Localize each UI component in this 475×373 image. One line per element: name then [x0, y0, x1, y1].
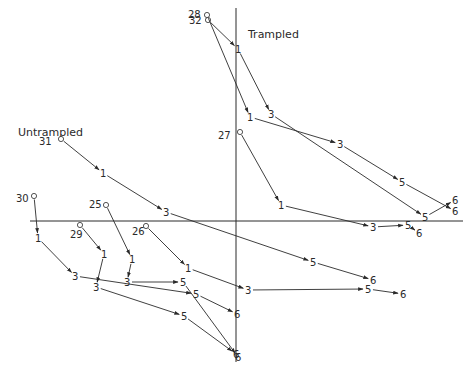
trajectory-plot-27: 271356	[218, 129, 422, 239]
time-step-label: 3	[93, 282, 99, 293]
time-step-label: 5	[365, 284, 371, 295]
trajectory-arrow	[412, 228, 415, 230]
trajectory-arrow	[148, 228, 184, 264]
time-step-label: 1	[35, 233, 41, 244]
time-step-label: 3	[124, 277, 130, 288]
trajectory-arrow	[406, 184, 450, 208]
plot-id-label: 31	[39, 136, 52, 147]
time-step-label: 5	[181, 311, 187, 322]
trajectory-arrow	[242, 135, 279, 201]
plot-id-label: 27	[218, 130, 231, 141]
time-step-label: 1	[247, 112, 253, 123]
trajectory-arrow	[373, 290, 398, 294]
start-marker-icon	[237, 129, 242, 134]
start-marker-icon	[58, 136, 63, 141]
ordination-diagram: Trampled Untrampled 32135628135627135631…	[0, 0, 475, 373]
time-step-label: 1	[185, 263, 191, 274]
plot-id-label: 25	[89, 199, 102, 210]
time-step-label: 3	[245, 285, 251, 296]
time-step-label: 5	[180, 277, 186, 288]
start-marker-icon	[103, 202, 108, 207]
time-step-label: 5	[405, 220, 411, 231]
trajectory-arrow	[286, 206, 368, 226]
trajectory-arrow	[344, 147, 397, 180]
plot-id-label: 30	[16, 193, 29, 204]
start-marker-icon	[77, 222, 82, 227]
trajectory-arrow	[188, 319, 232, 351]
trajectories-layer: 3213562813562713563113563013562913562513…	[16, 9, 458, 363]
time-step-label: 3	[268, 109, 274, 120]
time-step-label: 6	[416, 228, 422, 239]
plot-id-label: 29	[70, 229, 83, 240]
time-step-label: 5	[399, 177, 405, 188]
trajectory-plot-32: 321356	[189, 15, 458, 223]
time-step-label: 6	[400, 289, 406, 300]
trajectory-arrow	[429, 202, 450, 214]
time-step-label: 1	[278, 200, 284, 211]
trajectory-arrow	[186, 286, 235, 353]
time-step-label: 1	[129, 254, 135, 265]
trajectory-arrow	[318, 263, 368, 278]
plot-id-label: 26	[132, 226, 145, 237]
time-step-label: 1	[101, 249, 107, 260]
trampled-group-label: Trampled	[247, 28, 299, 41]
trajectory-arrow	[208, 18, 248, 112]
time-step-label: 6	[234, 309, 240, 320]
trajectory-arrow	[200, 296, 232, 312]
time-step-label: 5	[310, 257, 316, 268]
trajectory-arrow	[101, 289, 180, 315]
time-step-label: 5	[422, 212, 428, 223]
time-step-label: 6	[452, 206, 458, 217]
trajectory-arrow	[107, 176, 161, 210]
trajectory-plot-26: 261356	[132, 223, 406, 300]
time-step-label: 1	[235, 44, 241, 55]
time-step-label: 3	[370, 222, 376, 233]
plot-id-label: 28	[188, 9, 201, 20]
time-step-label: 3	[163, 207, 169, 218]
trajectory-arrow	[253, 289, 363, 290]
time-step-label: 1	[100, 168, 106, 179]
time-step-label: 6	[235, 352, 241, 363]
trajectory-arrow	[378, 225, 403, 226]
trajectory-arrow	[41, 242, 71, 273]
trajectory-arrow	[240, 53, 268, 109]
time-step-label: 5	[193, 289, 199, 300]
trajectory-arrow	[82, 228, 101, 250]
time-step-label: 3	[72, 271, 78, 282]
trajectory-arrow	[255, 118, 335, 142]
time-step-label: 3	[337, 139, 343, 150]
trajectory-arrow	[128, 264, 131, 277]
start-marker-icon	[31, 193, 36, 198]
trajectory-arrow	[211, 22, 235, 45]
start-marker-icon	[204, 12, 209, 17]
trajectory-plot-31: 311356	[39, 136, 376, 286]
trajectory-arrow	[64, 141, 99, 170]
trajectory-plot-29: 291356	[70, 222, 239, 360]
trajectory-arrow	[97, 259, 103, 282]
trajectory-arrow	[34, 199, 37, 233]
time-step-label: 6	[452, 195, 458, 206]
trajectory-arrow	[108, 208, 130, 254]
trajectory-plot-25: 251356	[89, 199, 241, 363]
